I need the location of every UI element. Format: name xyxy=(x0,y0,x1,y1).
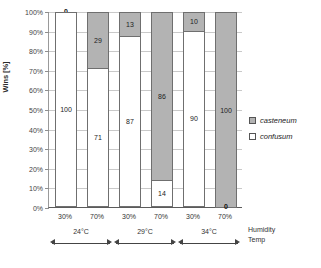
x-axis-tick-labels: 30%70%30%70%30%70% xyxy=(48,213,242,225)
x-axis-group: 34°C xyxy=(178,228,240,252)
bar-column[interactable]: 1000 xyxy=(215,12,237,207)
arrow-right-icon xyxy=(171,239,176,245)
y-axis-tick-label: 40% xyxy=(29,126,43,133)
y-axis-tick-label: 70% xyxy=(29,67,43,74)
x-axis-tick-label: 30% xyxy=(48,213,82,220)
bar-segment-value: 100 xyxy=(60,106,72,113)
legend-swatch-icon xyxy=(249,117,256,124)
y-axis-tick-label: 50% xyxy=(29,107,43,114)
x-axis-tick-label: 30% xyxy=(112,213,146,220)
bar-segment-value: 13 xyxy=(126,21,134,28)
x-axis-group-label: 24°C xyxy=(50,228,112,235)
bar-segment-value: 87 xyxy=(126,118,134,125)
legend-item[interactable]: confusum xyxy=(249,132,319,141)
arrow-left-icon xyxy=(50,239,55,245)
y-axis-title: Wins [%] xyxy=(1,47,10,107)
bar-segment-value: 86 xyxy=(158,93,166,100)
y-axis-tick-label: 10% xyxy=(29,185,43,192)
arrow-left-icon xyxy=(178,239,183,245)
bar-column[interactable]: 8614 xyxy=(151,12,173,207)
stacked-bar-chart: Wins [%] 100%90%80%70%60%50%40%30%20%10%… xyxy=(0,0,321,268)
bar-column[interactable]: 2971 xyxy=(87,12,109,207)
bar-column[interactable]: 0100 xyxy=(55,12,77,207)
bar-segment-value: 14 xyxy=(158,190,166,197)
y-axis-tick-label: 20% xyxy=(29,165,43,172)
bar-segment-casteneum[interactable]: 10 xyxy=(183,12,205,32)
x-axis-tick-label: 70% xyxy=(208,213,242,220)
x-axis-tick-label: 30% xyxy=(176,213,210,220)
y-axis-tick-label: 0% xyxy=(33,205,43,212)
plot-area: 100%90%80%70%60%50%40%30%20%10%0% 010029… xyxy=(48,12,242,208)
bars-layer: 010029711387861410901000 xyxy=(49,12,242,207)
bar-segment-value: 100 xyxy=(220,107,232,114)
y-axis-tick-label: 80% xyxy=(29,48,43,55)
bar-segment-confusum[interactable]: 100 xyxy=(55,12,77,207)
axis-caption-temp: Temp xyxy=(248,235,275,245)
x-axis-group-labels: 24°C29°C34°C xyxy=(48,228,242,254)
axis-caption-humidity: Humidity xyxy=(248,225,275,235)
x-axis-tick-label: 70% xyxy=(144,213,178,220)
chart-legend: casteneumconfusum xyxy=(249,116,319,148)
x-axis-group-label: 29°C xyxy=(114,228,176,235)
bar-segment-casteneum[interactable]: 29 xyxy=(87,12,109,69)
axis-caption: Humidity Temp xyxy=(248,225,275,245)
x-axis-group: 24°C xyxy=(50,228,112,252)
y-axis-tick-label: 30% xyxy=(29,146,43,153)
bar-segment-casteneum[interactable]: 13 xyxy=(119,12,141,37)
bar-segment-confusum[interactable]: 14 xyxy=(151,180,173,207)
group-range-line xyxy=(116,243,174,244)
bar-column[interactable]: 1387 xyxy=(119,12,141,207)
bar-column[interactable]: 1090 xyxy=(183,12,205,207)
legend-swatch-icon xyxy=(249,133,256,140)
legend-label: casteneum xyxy=(260,116,297,125)
group-range-line xyxy=(180,243,238,244)
y-axis-tick-label: 100% xyxy=(25,9,43,16)
legend-label: confusum xyxy=(260,132,293,141)
legend-item[interactable]: casteneum xyxy=(249,116,319,125)
bar-segment-value: 10 xyxy=(190,18,198,25)
bar-segment-casteneum[interactable]: 100 xyxy=(215,12,237,208)
bar-segment-confusum[interactable]: 87 xyxy=(119,36,141,207)
bar-segment-value: 29 xyxy=(94,37,102,44)
x-axis-group: 29°C xyxy=(114,228,176,252)
bar-segment-value: 0 xyxy=(224,203,228,210)
x-axis-tick-label: 70% xyxy=(80,213,114,220)
y-axis-tick-mark xyxy=(45,208,49,209)
arrow-right-icon xyxy=(107,239,112,245)
x-axis-group-label: 34°C xyxy=(178,228,240,235)
group-range-line xyxy=(52,243,110,244)
y-axis-tick-label: 90% xyxy=(29,28,43,35)
arrow-left-icon xyxy=(114,239,119,245)
bar-segment-confusum[interactable]: 90 xyxy=(183,31,205,207)
bar-segment-confusum[interactable]: 71 xyxy=(87,68,109,207)
bar-segment-casteneum[interactable]: 86 xyxy=(151,12,173,181)
bar-segment-value: 71 xyxy=(94,134,102,141)
y-axis-tick-label: 60% xyxy=(29,87,43,94)
bar-segment-value: 90 xyxy=(190,115,198,122)
arrow-right-icon xyxy=(235,239,240,245)
